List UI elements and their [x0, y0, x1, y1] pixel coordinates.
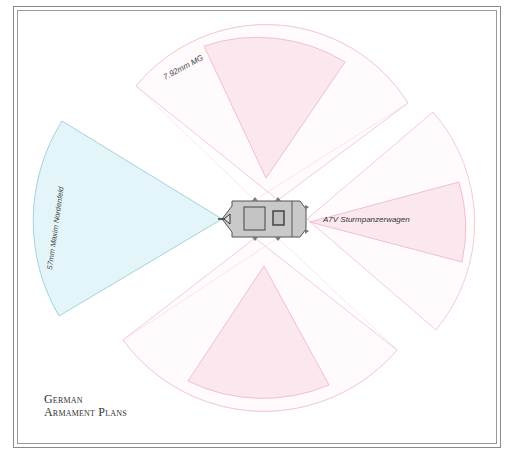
mg-mount-icon	[305, 205, 309, 210]
diagram-title: German Armament Plans	[44, 393, 127, 419]
hull-hatch-small	[273, 211, 284, 225]
mg-mount-icon	[305, 229, 309, 234]
title-line-2: Armament Plans	[44, 406, 127, 419]
armament-diagram: 7.92mm MG A7V Sturmpanzerwagen 57mm Maxi…	[0, 0, 509, 455]
vehicle-name-label: A7V Sturmpanzerwagen	[322, 215, 410, 224]
a7v-tank-hull	[218, 197, 309, 241]
hull-hatch-large	[244, 207, 265, 230]
